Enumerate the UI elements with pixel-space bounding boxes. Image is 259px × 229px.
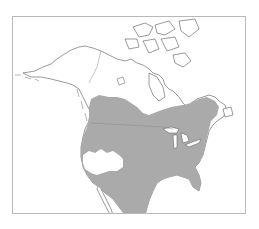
greenland-edge [179, 19, 199, 37]
arctic-island [125, 39, 139, 49]
arctic-island [173, 53, 191, 67]
arctic-island [133, 23, 153, 37]
arctic-island [143, 39, 159, 53]
arctic-island [161, 37, 179, 51]
arctic-island [155, 21, 175, 35]
north-america-map [13, 17, 246, 214]
map-frame [12, 16, 246, 214]
newfoundland [223, 107, 233, 117]
lake-michigan [173, 135, 177, 149]
